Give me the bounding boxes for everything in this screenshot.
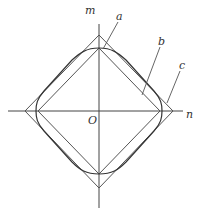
curve-a-label: a xyxy=(116,10,123,23)
leader-line-c xyxy=(167,71,180,103)
diagram-canvas: m n O a b c xyxy=(0,0,201,213)
m-axis-label: m xyxy=(85,4,95,17)
curve-b-label: b xyxy=(158,35,165,48)
curve-c-label: c xyxy=(179,59,185,72)
leader-line-a xyxy=(103,22,118,49)
n-axis-label: n xyxy=(186,108,193,121)
origin-label: O xyxy=(88,114,97,127)
